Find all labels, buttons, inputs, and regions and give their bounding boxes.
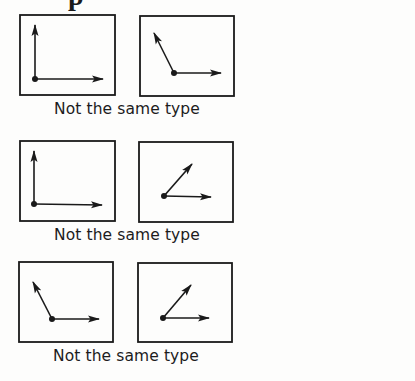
origin-point-icon [161,193,167,199]
row-2-panel-1 [20,141,115,221]
vector-arrow-2-icon [34,204,102,205]
vector-type-comparison-figure [0,0,415,381]
panel-frame [139,142,233,222]
origin-point-icon [160,315,166,321]
row-1-panel-2 [140,16,234,96]
row-1-caption: Not the same type [20,100,234,118]
row-3-panel-1 [19,262,113,342]
vector-arrow-2-icon [164,196,211,197]
vector-arrow-1-icon [33,282,52,319]
row-2-caption: Not the same type [20,226,234,244]
row-3-caption: Not the same type [19,347,233,365]
origin-point-icon [171,70,177,76]
vector-arrow-1-icon [154,33,174,73]
origin-point-icon [32,76,38,82]
origin-point-icon [49,316,55,322]
panels-layer [19,15,234,342]
panel-frame [138,263,232,342]
panel-frame [19,262,113,342]
row-3-panel-2 [138,263,232,342]
origin-point-icon [31,201,37,207]
row-2-panel-2 [139,142,233,222]
vector-arrow-1-icon [163,285,191,318]
row-1-panel-1 [20,15,115,95]
vector-arrow-1-icon [164,164,192,196]
panel-frame [140,16,234,96]
